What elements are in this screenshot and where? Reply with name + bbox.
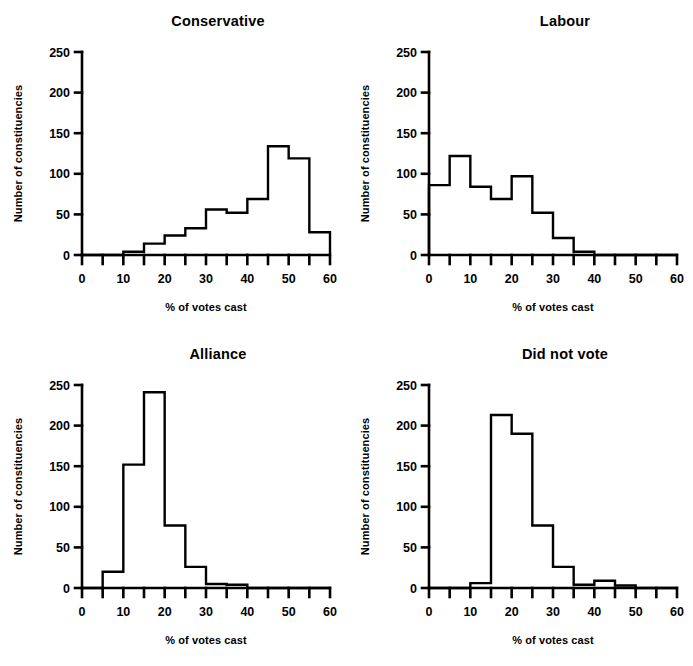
chart-canvas: Conservative050100150200250Number of con…	[0, 0, 346, 333]
chart-canvas: Did not vote050100150200250Number of con…	[347, 333, 693, 666]
y-tick-label: 50	[403, 541, 417, 555]
x-tick-label: 30	[546, 272, 560, 286]
y-axis-title: Number of constituencies	[12, 85, 24, 222]
panel-title: Conservative	[171, 13, 264, 29]
y-tick-label: 100	[396, 167, 417, 181]
panel-title: Did not vote	[522, 346, 608, 362]
x-tick-label: 50	[282, 272, 296, 286]
x-tick-label: 50	[282, 605, 296, 619]
x-tick-label: 60	[323, 605, 337, 619]
y-tick-label: 250	[396, 46, 417, 60]
x-tick-label: 10	[116, 605, 130, 619]
y-tick-label: 250	[396, 379, 417, 393]
chart-canvas: Labour050100150200250Number of constitue…	[347, 0, 693, 333]
x-tick-label: 0	[79, 605, 86, 619]
y-tick-label: 50	[403, 208, 417, 222]
y-tick-label: 250	[49, 46, 70, 60]
x-tick-label: 20	[505, 605, 519, 619]
y-tick-label: 200	[49, 419, 70, 433]
x-tick-label: 30	[199, 272, 213, 286]
y-tick-label: 0	[63, 249, 70, 263]
y-tick-label: 100	[49, 500, 70, 514]
panel-did-not-vote: Did not vote050100150200250Number of con…	[347, 333, 693, 666]
x-tick-label: 30	[199, 605, 213, 619]
x-tick-label: 60	[670, 605, 684, 619]
y-tick-label: 100	[396, 500, 417, 514]
y-tick-label: 200	[396, 419, 417, 433]
x-tick-label: 0	[79, 272, 86, 286]
panel-title: Labour	[540, 13, 590, 29]
panel-title: Alliance	[189, 346, 246, 362]
y-tick-label: 0	[410, 582, 417, 596]
panel-conservative: Conservative050100150200250Number of con…	[0, 0, 346, 333]
x-tick-label: 20	[158, 272, 172, 286]
x-tick-label: 10	[116, 272, 130, 286]
y-axis-title: Number of constituencies	[12, 418, 24, 555]
x-tick-label: 10	[463, 272, 477, 286]
histogram-outline	[429, 415, 677, 588]
y-axis-title: Number of constituencies	[359, 85, 371, 222]
y-tick-label: 200	[49, 86, 70, 100]
histogram-outline	[82, 392, 330, 588]
y-tick-label: 0	[63, 582, 70, 596]
x-axis-title: % of votes cast	[512, 301, 594, 313]
x-tick-label: 0	[426, 272, 433, 286]
x-tick-label: 10	[463, 605, 477, 619]
histogram-outline	[429, 156, 677, 255]
x-tick-label: 40	[240, 605, 254, 619]
y-axis-title: Number of constituencies	[359, 418, 371, 555]
x-tick-label: 30	[546, 605, 560, 619]
y-tick-label: 100	[49, 167, 70, 181]
x-tick-label: 20	[505, 272, 519, 286]
y-tick-label: 200	[396, 86, 417, 100]
x-tick-label: 60	[323, 272, 337, 286]
x-tick-label: 40	[240, 272, 254, 286]
x-tick-label: 20	[158, 605, 172, 619]
x-tick-label: 50	[629, 272, 643, 286]
y-tick-label: 50	[56, 541, 70, 555]
x-tick-label: 40	[587, 272, 601, 286]
histogram-figure: Conservative050100150200250Number of con…	[0, 0, 693, 666]
y-tick-label: 150	[396, 127, 417, 141]
y-tick-label: 150	[49, 460, 70, 474]
y-tick-label: 0	[410, 249, 417, 263]
y-tick-label: 250	[49, 379, 70, 393]
chart-canvas: Alliance050100150200250Number of constit…	[0, 333, 346, 666]
x-tick-label: 40	[587, 605, 601, 619]
x-tick-label: 0	[426, 605, 433, 619]
panel-alliance: Alliance050100150200250Number of constit…	[0, 333, 346, 666]
y-tick-label: 150	[49, 127, 70, 141]
x-axis-title: % of votes cast	[512, 634, 594, 646]
x-axis-title: % of votes cast	[165, 301, 247, 313]
x-axis-title: % of votes cast	[165, 634, 247, 646]
panel-labour: Labour050100150200250Number of constitue…	[347, 0, 693, 333]
y-tick-label: 150	[396, 460, 417, 474]
histogram-outline	[82, 146, 330, 255]
x-tick-label: 60	[670, 272, 684, 286]
x-tick-label: 50	[629, 605, 643, 619]
y-tick-label: 50	[56, 208, 70, 222]
